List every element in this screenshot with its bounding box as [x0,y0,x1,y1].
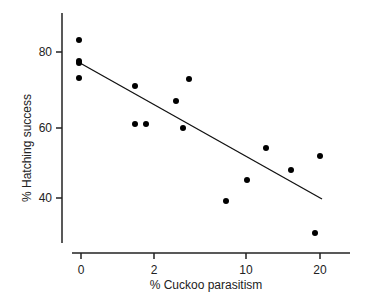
data-point [76,60,82,66]
data-point [132,83,138,89]
x-axis-label: % Cuckoo parasitism [150,278,263,292]
y-ticks: 406080 [39,45,62,205]
x-tick-label: 0 [78,263,85,277]
data-point [186,76,192,82]
y-tick-label: 60 [39,121,53,135]
data-point [312,230,318,236]
x-tick-label: 10 [239,263,253,277]
y-tick-label: 80 [39,45,53,59]
data-point [244,177,250,183]
data-point [132,121,138,127]
data-point [173,98,179,104]
x-ticks: 021020 [78,253,327,277]
x-tick-label: 2 [151,263,158,277]
data-point [263,145,269,151]
data-point [288,167,294,173]
x-tick-label: 20 [313,263,327,277]
y-tick-label: 40 [39,191,53,205]
axes [62,13,350,253]
data-point [223,198,229,204]
data-point [317,153,323,159]
regression-line [80,63,322,199]
data-point [180,125,186,131]
data-points [76,37,323,236]
data-point [76,75,82,81]
data-point [143,121,149,127]
y-axis-label: % Hatching success [20,94,34,202]
scatter-chart: 406080 021020 % Hatching success % Cucko… [0,0,365,306]
data-point [76,37,82,43]
